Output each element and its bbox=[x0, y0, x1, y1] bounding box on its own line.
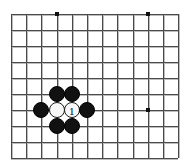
stone-white-2[interactable]: 1 bbox=[64, 102, 80, 118]
stone-layer: 1 bbox=[0, 0, 196, 167]
go-board-diagram: 1 bbox=[0, 0, 196, 167]
stone-black-1[interactable] bbox=[49, 86, 65, 102]
stone-black-6[interactable] bbox=[64, 118, 80, 134]
move-number-label: 1 bbox=[65, 106, 79, 117]
stone-black-3[interactable] bbox=[33, 102, 49, 118]
stone-black-5[interactable] bbox=[49, 118, 65, 134]
stone-black-4[interactable] bbox=[79, 102, 95, 118]
stone-white-1[interactable] bbox=[49, 102, 65, 118]
stone-black-2[interactable] bbox=[64, 86, 80, 102]
